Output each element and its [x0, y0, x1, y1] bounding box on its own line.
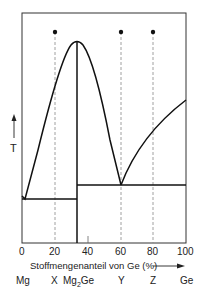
- phase-diagram: [0, 0, 202, 297]
- x-tick-0: 0: [19, 247, 25, 257]
- composition-label-mg: Mg: [16, 276, 30, 286]
- composition-label-z: Z: [150, 276, 156, 286]
- marker-dot-z: [151, 30, 155, 34]
- mg2ge-main: Mg: [63, 275, 77, 286]
- x-axis-title: Stoffmengenanteil von Ge (%): [30, 261, 157, 271]
- composition-label-ge: Ge: [180, 276, 193, 286]
- plot-frame: [22, 13, 186, 243]
- liquidus-right: [121, 100, 186, 185]
- x-tick-100: 100: [177, 247, 194, 257]
- marker-dot-x: [53, 30, 57, 34]
- x-tick-40: 40: [82, 247, 93, 257]
- x-tick-80: 80: [147, 247, 158, 257]
- liquidus-left: [22, 42, 121, 200]
- marker-dot-y: [119, 30, 123, 34]
- composition-label-y: Y: [118, 276, 125, 286]
- y-axis-label: T: [10, 143, 17, 154]
- x-axis-arrow-head: [177, 264, 185, 269]
- mg2ge-suffix: Ge: [81, 275, 94, 286]
- x-tick-20: 20: [49, 247, 60, 257]
- composition-label-x: X: [51, 276, 58, 286]
- x-tick-60: 60: [115, 247, 126, 257]
- composition-label-mg2ge: Mg2Ge: [63, 276, 94, 288]
- t-axis-arrow-head: [12, 114, 17, 121]
